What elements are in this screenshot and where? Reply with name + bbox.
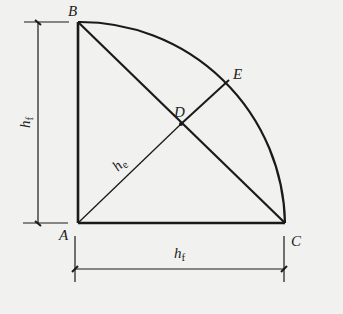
- segment-DE: [181, 80, 229, 124]
- label-C: C: [291, 233, 302, 249]
- label-A: A: [58, 227, 69, 243]
- label-hf-horizontal: hf: [174, 245, 186, 263]
- label-B: B: [68, 3, 77, 19]
- throat-AD: [78, 124, 181, 223]
- weld-diagram: B A C D E hf hf he: [0, 0, 343, 314]
- label-D: D: [173, 104, 185, 120]
- label-E: E: [232, 66, 242, 82]
- label-hf-vertical: hf: [17, 117, 35, 129]
- point-D-marker: [179, 122, 183, 126]
- label-he-throat: he: [109, 154, 130, 176]
